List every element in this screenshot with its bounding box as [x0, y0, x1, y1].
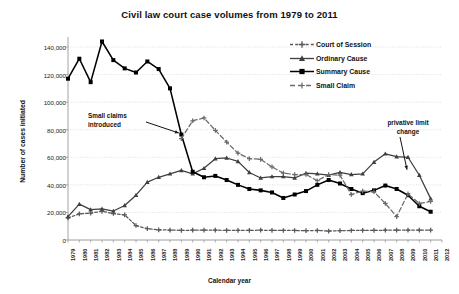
- annotation-privative-line2: change: [370, 128, 446, 137]
- x-tick-label: 1995: [252, 249, 258, 261]
- x-tick-label: 1986: [150, 249, 156, 261]
- x-tick-label: 1982: [104, 249, 110, 261]
- x-tick-label: 1993: [229, 249, 235, 261]
- x-tick-label: 2003: [342, 249, 348, 261]
- x-tick-label: 2007: [388, 249, 394, 261]
- x-tick-label: 2008: [399, 249, 405, 261]
- legend-label-small-claim: Small Claim: [315, 82, 355, 89]
- x-tick-label: 1989: [184, 249, 190, 261]
- legend-swatch-small-claim: [289, 80, 315, 91]
- annotation-small-claims-line1: Small claims: [88, 112, 127, 121]
- x-tick-label: 2002: [331, 249, 337, 261]
- annotation-privative-limit-change: privative limit change: [370, 119, 446, 136]
- legend-item-small-claim[interactable]: Small Claim: [289, 79, 417, 93]
- x-tick-label: 2009: [410, 249, 416, 261]
- legend-label-ordinary-cause: Ordinary Cause: [315, 55, 367, 62]
- annotation-privative-line1: privative limit: [370, 119, 446, 128]
- x-tick-label: 1988: [172, 249, 178, 261]
- annotation-small-claims-line2: introduced: [88, 121, 127, 130]
- x-tick-label: 2005: [365, 249, 371, 261]
- legend-label-court-of-session: Court of Session: [315, 41, 371, 48]
- legend-swatch-court-of-session: [289, 39, 315, 50]
- x-tick-label: 1984: [127, 249, 133, 261]
- x-tick-label: 2000: [308, 249, 314, 261]
- x-tick-label: 2010: [422, 249, 428, 261]
- x-tick-label: 2012: [444, 249, 450, 261]
- legend-item-ordinary-cause[interactable]: Ordinary Cause: [289, 52, 417, 66]
- x-tick-label: 2011: [433, 249, 439, 261]
- chart-legend: Court of Session Ordinary Cause Summary …: [289, 38, 417, 92]
- legend-swatch-ordinary-cause: [289, 53, 315, 64]
- x-tick-label: 1980: [82, 249, 88, 261]
- x-tick-label: 1987: [161, 249, 167, 261]
- x-tick-label: 1991: [206, 249, 212, 261]
- x-tick-label: 1979: [70, 249, 76, 261]
- x-tick-label: 1981: [93, 249, 99, 261]
- x-tick-label: 2001: [320, 249, 326, 261]
- x-tick-label: 2004: [354, 249, 360, 261]
- x-tick-label: 1990: [195, 249, 201, 261]
- x-tick-label: 1997: [274, 249, 280, 261]
- chart-container: Civil law court case volumes from 1979 t…: [0, 0, 459, 294]
- legend-item-court-of-session[interactable]: Court of Session: [289, 38, 417, 52]
- legend-item-summary-cause[interactable]: Summary Cause: [289, 65, 417, 79]
- x-tick-label: 1996: [263, 249, 269, 261]
- x-tick-label: 1985: [138, 249, 144, 261]
- x-tick-label: 1998: [286, 249, 292, 261]
- x-tick-label: 1999: [297, 249, 303, 261]
- x-tick-label: 1992: [218, 249, 224, 261]
- legend-label-summary-cause: Summary Cause: [315, 68, 370, 75]
- x-tick-label: 2006: [376, 249, 382, 261]
- legend-swatch-summary-cause: [289, 66, 315, 77]
- x-tick-label: 1994: [240, 249, 246, 261]
- x-tick-label: 1983: [116, 249, 122, 261]
- annotation-small-claims-introduced: Small claims introduced: [88, 112, 127, 129]
